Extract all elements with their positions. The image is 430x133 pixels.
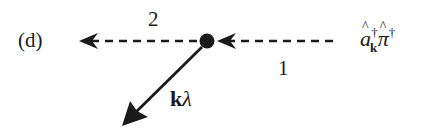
line-1-label: 1	[278, 58, 289, 79]
line-2-label: 2	[148, 9, 159, 30]
operator-a-subscript: k	[370, 40, 377, 55]
operator-label: ak†π†	[360, 26, 395, 54]
dashed-line-2	[79, 33, 197, 49]
photon-k: k	[170, 86, 182, 111]
photon-label: kλ	[170, 88, 192, 110]
operator-pi-dagger: †	[389, 25, 396, 40]
photon-lambda: λ	[182, 86, 192, 111]
dashed-line-1	[217, 33, 333, 49]
panel-label: (d)	[18, 30, 43, 51]
vertex-dot	[200, 34, 215, 49]
operator-a: a	[360, 28, 371, 50]
operator-pi: π	[378, 28, 389, 50]
